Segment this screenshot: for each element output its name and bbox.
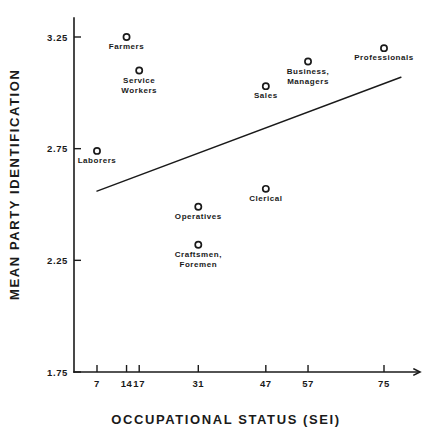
- x-tick-group: 7141731475775: [94, 365, 390, 389]
- data-point-label: Professionals: [354, 53, 414, 62]
- data-point[interactable]: Laborers: [78, 148, 117, 165]
- data-point-label: Laborers: [78, 156, 117, 165]
- data-point-label: Service: [123, 76, 155, 85]
- y-tick-label: 3.25: [47, 32, 68, 43]
- x-axis-title: OCCUPATIONAL STATUS (SEI): [111, 412, 340, 427]
- data-point[interactable]: Clerical: [249, 186, 282, 203]
- data-point-label: Operatives: [175, 212, 222, 221]
- figure-container: MEAN PARTY IDENTIFICATION OCCUPATIONAL S…: [0, 0, 437, 441]
- x-tick-label: 57: [302, 378, 314, 389]
- data-point[interactable]: Craftsmen,Foremen: [175, 242, 222, 269]
- data-point-label: Clerical: [249, 194, 282, 203]
- data-point-label: Sales: [254, 91, 278, 100]
- data-point-label: Farmers: [109, 42, 144, 51]
- x-tick-label: 75: [378, 378, 390, 389]
- data-point[interactable]: Professionals: [354, 45, 414, 62]
- open-circle-marker: [263, 83, 269, 89]
- data-point[interactable]: Sales: [254, 83, 278, 100]
- y-tick-label: 1.75: [47, 367, 68, 378]
- y-tick-group: 3.252.752.251.75: [47, 32, 81, 378]
- x-tick-label: 14: [121, 378, 133, 389]
- x-tick-label: 47: [260, 378, 272, 389]
- open-circle-marker: [195, 204, 201, 210]
- data-point-label: Craftsmen,: [175, 250, 222, 259]
- y-axis-title: MEAN PARTY IDENTIFICATION: [7, 69, 22, 300]
- data-point-group: FarmersServiceWorkersLaborersOperativesC…: [78, 34, 414, 269]
- x-tick-label: 7: [94, 378, 100, 389]
- data-point[interactable]: Operatives: [175, 204, 222, 221]
- open-circle-marker: [263, 186, 269, 192]
- y-tick-label: 2.75: [47, 143, 68, 154]
- open-circle-marker: [123, 34, 129, 40]
- open-circle-marker: [94, 148, 100, 154]
- data-point[interactable]: Business,Managers: [287, 58, 330, 85]
- data-point[interactable]: ServiceWorkers: [121, 67, 157, 94]
- open-circle-marker: [136, 67, 142, 73]
- data-point[interactable]: Farmers: [109, 34, 144, 51]
- x-tick-label: 31: [192, 378, 204, 389]
- open-circle-marker: [381, 45, 387, 51]
- data-point-label: Business,: [287, 67, 330, 76]
- open-circle-marker: [305, 58, 311, 64]
- data-point-label: Foremen: [179, 260, 217, 269]
- scatter-plot: MEAN PARTY IDENTIFICATION OCCUPATIONAL S…: [0, 0, 437, 441]
- y-tick-label: 2.25: [47, 255, 68, 266]
- data-point-label: Workers: [121, 86, 157, 95]
- open-circle-marker: [195, 242, 201, 248]
- data-point-label: Managers: [287, 77, 329, 86]
- x-tick-label: 17: [133, 378, 145, 389]
